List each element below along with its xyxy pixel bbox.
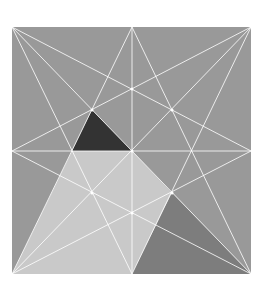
intersection-point <box>131 150 134 153</box>
intersection-point <box>91 109 94 112</box>
intersection-point <box>171 109 174 112</box>
intersection-point <box>91 192 94 195</box>
intersection-point <box>131 88 134 91</box>
intersection-point <box>131 212 134 215</box>
geometric-figure <box>0 0 266 287</box>
intersection-point <box>171 192 174 195</box>
